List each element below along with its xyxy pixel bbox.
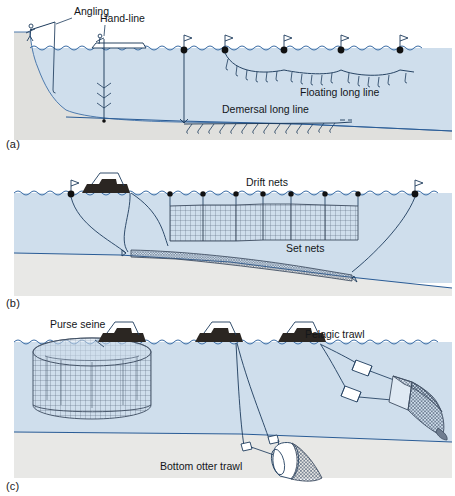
label-set-nets: Set nets xyxy=(286,242,325,254)
purse-seine-gear xyxy=(33,338,151,419)
leader-handline xyxy=(104,25,105,36)
label-bottom-otter-trawl: Bottom otter trawl xyxy=(160,460,242,472)
fishing-gear-svg: Angling Hand-line xyxy=(0,0,455,496)
handline-weight xyxy=(102,119,106,123)
fishing-rod xyxy=(30,22,55,30)
panel-b-caption: (b) xyxy=(6,297,20,309)
fishing-gear-figure: Angling Hand-line xyxy=(0,0,455,496)
panel-c: Purse seine xyxy=(14,318,452,481)
boat-deckhouse xyxy=(99,179,117,184)
label-drift-nets: Drift nets xyxy=(246,176,288,188)
panel-b: Drift nets Set nets xyxy=(14,173,452,296)
label-pelagic-trawl: Pelagic trawl xyxy=(305,328,365,340)
panel-a-caption: (a) xyxy=(6,138,20,150)
fishing-boat-c2 xyxy=(195,322,243,342)
purse-seine-headline xyxy=(33,338,151,366)
panel-a: Angling Hand-line xyxy=(14,5,452,140)
otter-board-left xyxy=(241,442,252,451)
boat-hull xyxy=(82,184,130,193)
otter-board-right xyxy=(268,435,279,444)
handline-boat xyxy=(92,43,146,48)
panel-c-caption: (c) xyxy=(6,480,19,492)
label-demersal-long-line: Demersal long line xyxy=(222,103,309,115)
label-floating-long-line: Floating long line xyxy=(300,86,380,98)
label-hand-line: Hand-line xyxy=(100,12,145,24)
drift-net-body xyxy=(170,204,358,241)
fishing-boat-b xyxy=(82,173,130,193)
leader-angling xyxy=(56,18,72,24)
label-purse-seine: Purse seine xyxy=(50,318,106,330)
